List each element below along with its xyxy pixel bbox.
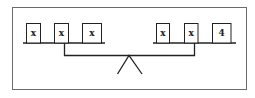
right-box-2-label: x [189, 28, 195, 38]
right-box-1: x [157, 24, 170, 44]
right-box-3-label: 4 [219, 28, 225, 38]
left-box-1: x [27, 24, 41, 44]
left-box-2-label: x [59, 28, 65, 38]
left-box-3-label: x [89, 28, 95, 38]
right-box-2: x [185, 24, 199, 44]
right-pan: x x 4 [153, 24, 236, 44]
left-pan: x x x [23, 24, 105, 44]
left-box-2: x [55, 24, 69, 44]
right-box-3: 4 [213, 24, 232, 44]
balance-scale: x x x x x 4 [0, 0, 255, 98]
right-box-1-label: x [160, 28, 166, 38]
left-box-1-label: x [31, 28, 37, 38]
left-box-3: x [83, 24, 102, 44]
scale-beam [65, 43, 195, 56]
fulcrum [118, 56, 143, 75]
